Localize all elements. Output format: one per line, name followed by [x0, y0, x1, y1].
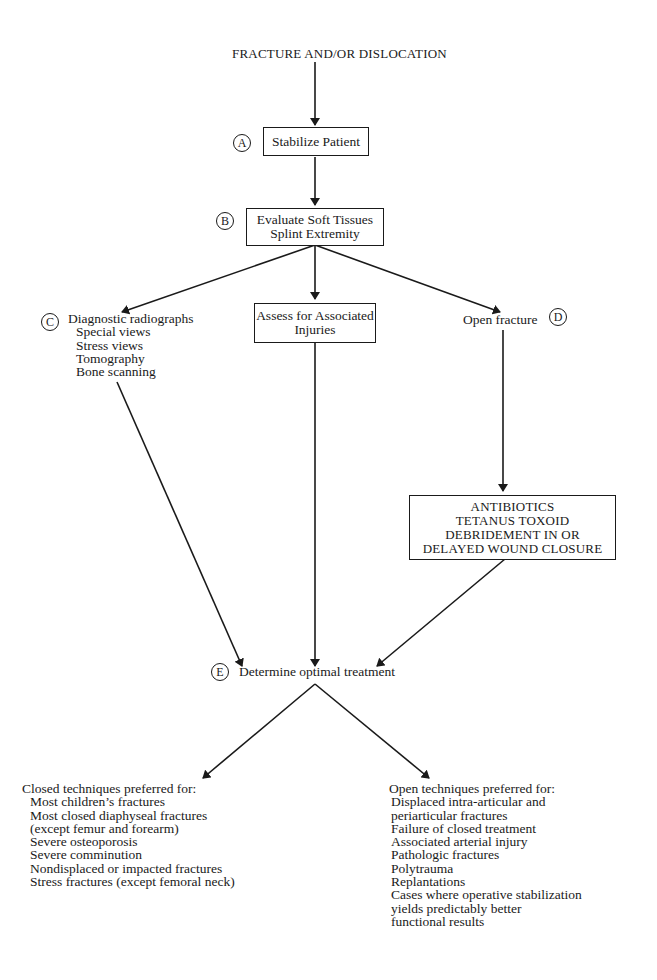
determine-optimal-treatment-label: Determine optimal treatment	[239, 665, 395, 679]
radiograph-item: Tomography	[68, 352, 194, 365]
closed-techniques-heading: Closed techniques preferred for:	[22, 782, 235, 795]
radiograph-item: Special views	[68, 325, 194, 338]
step-marker-c: C	[41, 313, 59, 331]
stabilize-patient-label: Stabilize Patient	[272, 135, 360, 149]
open-indication-item: Cases where operative stabilization	[389, 888, 582, 901]
closed-indication-item: (except femur and forearm)	[22, 822, 235, 835]
step-marker-b: B	[216, 212, 234, 230]
open-fracture-management-box: ANTIBIOTICS TETANUS TOXOID DEBRIDEMENT I…	[409, 495, 616, 560]
flowchart-title: FRACTURE AND/OR DISLOCATION	[232, 47, 447, 61]
open-indication-item: yields predictably better	[389, 902, 582, 915]
open-indication-item: periarticular fractures	[389, 809, 582, 822]
radiograph-item: Bone scanning	[68, 365, 194, 378]
open-techniques-block: Open techniques preferred for: Displaced…	[389, 782, 582, 928]
flowchart: FRACTURE AND/OR DISLOCATION A Stabilize …	[0, 0, 657, 980]
assess-associated-line: Assess for Associated	[256, 309, 374, 323]
stabilize-patient-box: Stabilize Patient	[263, 127, 369, 156]
open-indication-item: Pathologic fractures	[389, 848, 582, 861]
step-marker-d: D	[549, 308, 567, 326]
open-indication-item: Failure of closed treatment	[389, 822, 582, 835]
evaluate-soft-tissues-line: Evaluate Soft Tissues	[257, 213, 373, 227]
diagnostic-radiographs-block: Diagnostic radiographs Special views Str…	[68, 312, 194, 378]
open-indication-item: functional results	[389, 915, 582, 928]
injuries-line: Injuries	[294, 323, 335, 337]
debridement-line: DEBRIDEMENT IN OR	[445, 528, 580, 542]
step-marker-e: E	[211, 663, 229, 681]
splint-extremity-line: Splint Extremity	[270, 227, 360, 241]
closed-indication-item: Severe comminution	[22, 848, 235, 861]
closed-techniques-block: Closed techniques preferred for: Most ch…	[22, 782, 235, 888]
radiograph-item: Stress views	[68, 339, 194, 352]
assess-associated-injuries-box: Assess for Associated Injuries	[254, 303, 376, 343]
evaluate-soft-tissues-box: Evaluate Soft Tissues Splint Extremity	[246, 208, 384, 246]
open-fracture-label: Open fracture	[463, 313, 538, 327]
open-indication-item: Replantations	[389, 875, 582, 888]
closed-indication-item: Nondisplaced or impacted fractures	[22, 862, 235, 875]
diagnostic-radiographs-heading: Diagnostic radiographs	[68, 312, 194, 325]
open-indication-item: Displaced intra-articular and	[389, 795, 582, 808]
antibiotics-line: ANTIBIOTICS	[471, 500, 555, 514]
step-marker-a: A	[233, 134, 251, 152]
wound-closure-line: DELAYED WOUND CLOSURE	[423, 542, 603, 556]
open-indication-item: Polytrauma	[389, 862, 582, 875]
closed-indication-item: Most children’s fractures	[22, 795, 235, 808]
closed-indication-item: Stress fractures (except femoral neck)	[22, 875, 235, 888]
closed-indication-item: Severe osteoporosis	[22, 835, 235, 848]
open-techniques-heading: Open techniques preferred for:	[389, 782, 582, 795]
closed-indication-item: Most closed diaphyseal fractures	[22, 809, 235, 822]
tetanus-toxoid-line: TETANUS TOXOID	[456, 514, 570, 528]
open-indication-item: Associated arterial injury	[389, 835, 582, 848]
